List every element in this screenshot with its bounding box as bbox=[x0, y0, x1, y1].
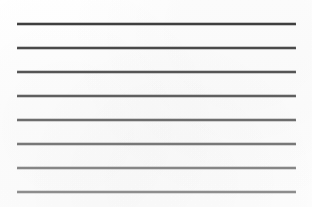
rule-line-stroke bbox=[17, 95, 296, 97]
rule-line bbox=[17, 71, 296, 73]
rule-line-halo bbox=[17, 142, 296, 146]
rule-line-halo bbox=[17, 166, 296, 170]
rule-line bbox=[17, 167, 296, 169]
rule-line-stroke bbox=[17, 167, 296, 169]
rule-line-halo bbox=[17, 94, 296, 98]
rule-line-halo bbox=[17, 70, 296, 74]
rule-line bbox=[17, 95, 296, 97]
rule-line bbox=[17, 47, 296, 49]
rule-line bbox=[17, 23, 296, 25]
paper-grain-texture bbox=[0, 0, 312, 207]
rule-line-halo bbox=[17, 22, 296, 26]
rule-line-stroke bbox=[17, 119, 296, 121]
rule-line bbox=[17, 119, 296, 121]
rule-line-stroke bbox=[17, 191, 296, 193]
rule-line bbox=[17, 191, 296, 193]
rule-line-stroke bbox=[17, 71, 296, 73]
rule-line bbox=[17, 143, 296, 145]
scanned-page bbox=[0, 0, 312, 207]
rule-line-halo bbox=[17, 190, 296, 194]
rule-line-halo bbox=[17, 118, 296, 122]
rule-line-stroke bbox=[17, 143, 296, 145]
rule-line-halo bbox=[17, 46, 296, 50]
rule-line-stroke bbox=[17, 47, 296, 49]
rule-line-stroke bbox=[17, 23, 296, 25]
